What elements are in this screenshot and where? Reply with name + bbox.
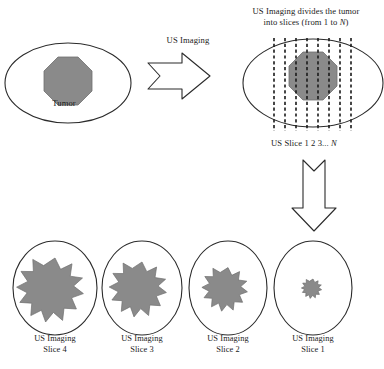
us-slice-label: US Slice 1 2 3... N — [238, 139, 370, 149]
arrow-down-to-slices — [292, 160, 336, 231]
slice-caption-1-line2: Slice 1 — [270, 344, 356, 355]
slice-caption-2-line1: US Imaging — [185, 333, 271, 344]
slice-caption-3-line1: US Imaging — [99, 333, 185, 344]
figure-graphics — [0, 0, 384, 369]
us-slice-label-n: N — [331, 138, 337, 148]
header-caption-line2-post: ) — [345, 17, 348, 27]
slice-caption-3: US Imaging Slice 3 — [99, 333, 185, 355]
arrow-right-us-imaging — [148, 53, 210, 99]
slice-caption-1-line1: US Imaging — [270, 333, 356, 344]
slice-caption-4-line1: US Imaging — [12, 333, 98, 344]
figure-root: US Imaging divides the tumor into slices… — [0, 0, 384, 369]
slice-caption-1: US Imaging Slice 1 — [270, 333, 356, 355]
slice-diagram-1 — [274, 241, 352, 335]
slice-diagram-3 — [102, 241, 182, 335]
right-body-diagram — [243, 38, 383, 131]
header-caption: US Imaging divides the tumor into slices… — [228, 6, 384, 28]
slice-caption-2-line2: Slice 2 — [185, 344, 271, 355]
slice-diagram-4 — [13, 241, 97, 335]
slice-row — [13, 241, 352, 335]
slice-caption-4: US Imaging Slice 4 — [12, 333, 98, 355]
slice-diagram-2 — [189, 241, 267, 335]
left-body-diagram — [5, 43, 131, 123]
slice-caption-4-line2: Slice 4 — [12, 344, 98, 355]
us-imaging-label: US Imaging — [138, 36, 238, 46]
tumor-label: Tumor — [28, 99, 100, 109]
us-slice-label-pre: US Slice 1 2 3... — [271, 138, 331, 148]
header-caption-line2-pre: into slices (from 1 to — [264, 17, 340, 27]
header-caption-line2: into slices (from 1 to N) — [228, 17, 384, 28]
header-caption-line1: US Imaging divides the tumor — [228, 6, 384, 17]
slice-caption-2: US Imaging Slice 2 — [185, 333, 271, 355]
slice-caption-3-line2: Slice 3 — [99, 344, 185, 355]
